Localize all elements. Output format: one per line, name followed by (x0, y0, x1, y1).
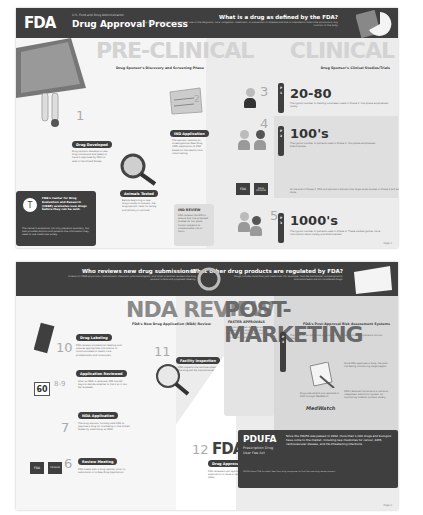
phase-1-badge: P1 (278, 83, 284, 113)
page-1: FDA U.S. Food and Drug Administration Dr… (16, 8, 398, 248)
animals-tested-text: Before beginning a new drug's study in h… (122, 199, 158, 212)
cder-box: T FDA's Center for Drug Evaluation and R… (16, 191, 96, 246)
drug-definition-answer: A drug is any product that is intended f… (138, 21, 338, 27)
patient-group-icon (250, 216, 262, 236)
phase-2-stat: 100's (290, 126, 329, 141)
pdufa-footnote: PDUFA allows FDA to collect fees from dr… (243, 470, 393, 473)
ind-review-title: IND REVIEW (178, 208, 200, 212)
svg-text:T: T (27, 201, 33, 210)
agency-name: U.S. Food and Drug Administration (72, 13, 124, 17)
post-marketing-subtitle: FDA's Post-Approval Risk Assessment Syst… (303, 322, 390, 326)
cder-text: The center's evaluation not only prevent… (22, 227, 92, 237)
phase-2-text: The typical number of patients used in P… (290, 142, 390, 148)
phase-4-badge: P4 (280, 332, 286, 372)
page-number: Page 1 (384, 242, 392, 245)
application-reviewed-label: Application Reviewed (76, 370, 127, 377)
medicine-bottle-icon (34, 320, 56, 356)
reviewers-answer: A team of CDER physicians, statisticians… (66, 275, 196, 281)
application-reviewed-text: After an NDA is received, FDA has 60 day… (78, 380, 128, 390)
fda-podium: FDA (30, 462, 44, 474)
ind-review-box: IND REVIEW FDA reviews the IND to assure… (174, 204, 214, 246)
document-pen-icon (306, 362, 336, 388)
sponsor-podium: SPONSOR (48, 462, 62, 474)
phase-3-text: The typical number of patients used in P… (290, 230, 390, 236)
pdufa-full-name: Prescription Drug User Fee Act (243, 446, 275, 455)
phase-1-stat: 20-80 (290, 86, 332, 101)
cder-title: FDA's Center for Drug Evaluation and Res… (42, 197, 92, 212)
calendar-icon: 60 (34, 382, 50, 396)
ind-application-label: IND Application (170, 130, 209, 137)
pdufa-acronym: PDUFA (243, 434, 276, 444)
step-number-6: 6 (64, 456, 72, 471)
step-number-2: 2 (194, 94, 200, 104)
end-of-phase-2-note: At the end of Phase 2, FDA and sponsors … (290, 188, 400, 194)
review-meeting-text: FDA meets with a drug sponsor prior to s… (78, 468, 128, 474)
phase-1-text: The typical number of healthy volunteers… (290, 102, 390, 108)
page1-header: FDA U.S. Food and Drug Administration Dr… (16, 8, 398, 38)
folder-icon (16, 38, 86, 98)
pills-icon (194, 264, 224, 294)
step-number-3: 3 (260, 84, 268, 99)
step-number-4: 4 (260, 116, 268, 131)
nda-application-label: NDA Application (78, 412, 118, 419)
medwatch-text: Drug side effects are reported to FDA th… (300, 392, 340, 398)
clinical-subtitle: Drug Sponsor's Clinical Studies/Trials (321, 66, 390, 70)
step-number-10: 10 (56, 340, 73, 355)
clinical-label: CLINICAL (290, 38, 394, 63)
inspection-magnifier-icon (154, 362, 192, 396)
sponsor-podium: DRUG SPONSOR (254, 183, 268, 195)
patient-icon (238, 130, 250, 150)
ind-review-text: FDA reviews the IND to assure that the p… (178, 214, 210, 233)
paper-icon (350, 266, 394, 294)
fda-podium: FDA (236, 183, 250, 195)
step-number-8-9: 8-9 (54, 380, 65, 388)
phase-3-stat: 1000's (290, 213, 338, 228)
cder-seal-icon: T (22, 197, 38, 213)
drug-developed-text: Drug sponsor develops a new drug compoun… (72, 150, 108, 163)
step-number-1: 1 (76, 108, 84, 123)
drug-definition-question: What is a drug as defined by the FDA? (219, 14, 338, 20)
drug-developed-label: Drug Developed (72, 141, 112, 148)
patient-icon (254, 130, 266, 150)
page-2: Who reviews new drug submissions? A team… (16, 262, 398, 510)
medwatch-logo: MedWatch (306, 405, 335, 411)
pdufa-text: Since the PDUFA was passed in 1992, more… (286, 435, 392, 446)
nda-application-text: The drug sponsor formally asks FDA to ap… (78, 422, 130, 432)
ind-application-text: The sponsor submits an Investigational N… (172, 139, 206, 155)
phase-2-badge: P2 (278, 126, 284, 156)
phase-3-badge: P3 (278, 213, 284, 243)
magnifying-glass-icon (119, 152, 159, 186)
review-meeting-label: Review Meeting (78, 458, 117, 465)
post-monitoring-text: Once FDA approves a drug, the post-marke… (344, 362, 394, 368)
preclinical-label: PRE-CLINICAL (96, 38, 253, 63)
step-number-12: 12 (192, 442, 209, 457)
volunteer-icon (244, 88, 256, 108)
drug-labeling-text: FDA reviews professional labeling and as… (76, 344, 126, 357)
reviewers-question: Who reviews new drug submissions? (76, 268, 196, 274)
patient-group-icon (238, 212, 250, 232)
page2-header: Who reviews new drug submissions? A team… (16, 262, 398, 296)
pie-chart-icon (356, 10, 392, 38)
other-products-answer: Drugs include more than just medicines. … (233, 275, 343, 281)
page-number: Page 2 (384, 504, 392, 507)
fda-logo: FDA (24, 14, 55, 32)
step-number-11: 11 (154, 344, 171, 359)
pdufa-box: PDUFA Prescription Drug User Fee Act Sin… (238, 430, 398, 488)
preclinical-subtitle: Drug Sponsor's Discovery and Screening P… (116, 66, 204, 70)
animals-tested-label: Animals Tested (120, 190, 158, 197)
drug-labeling-label: Drug Labeling (76, 334, 112, 341)
post-marketing-intro: The need for an adequate population of a… (290, 334, 390, 340)
sentinel-text: FDA's Sentinel Initiative is a national,… (344, 390, 394, 400)
nda-subtitle: FDA's New Drug Application (NDA) Review (132, 322, 211, 326)
test-tubes-icon (38, 93, 68, 128)
step-number-7: 7 (61, 420, 69, 435)
